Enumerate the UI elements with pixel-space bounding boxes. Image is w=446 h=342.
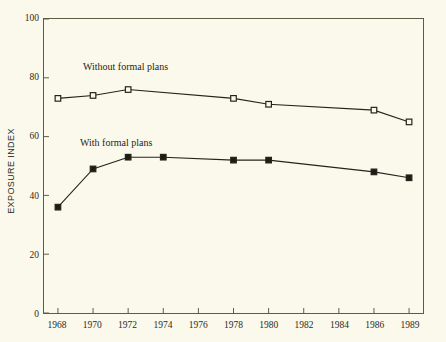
x-axis-tick-label: 1984	[330, 320, 349, 330]
data-point-marker	[55, 204, 61, 210]
series-label-without-formal-plans: Without formal plans	[83, 61, 168, 72]
data-point-marker	[231, 96, 237, 102]
x-axis-tick-label: 1970	[83, 320, 102, 330]
x-axis-tick-labels: 1968197019721974197619781980198219841986…	[0, 320, 446, 338]
y-axis-tick-label: 0	[1, 309, 39, 319]
x-axis-tick-label: 1976	[189, 320, 208, 330]
series-label-with-formal-plans: With formal plans	[80, 137, 152, 148]
chart-page: EXPOSURE INDEX 020406080100 196819701972…	[0, 0, 446, 342]
x-axis-tick-label: 1968	[48, 320, 67, 330]
data-point-marker	[160, 154, 166, 160]
y-axis-tick-label: 60	[1, 131, 39, 141]
y-axis-tick-label: 20	[1, 250, 39, 260]
data-point-marker	[406, 119, 412, 125]
x-axis-tick-label: 1982	[295, 320, 314, 330]
y-axis-tick-label: 100	[1, 13, 39, 23]
data-point-marker	[125, 154, 131, 160]
data-point-marker	[266, 101, 272, 107]
data-point-marker	[90, 166, 96, 172]
data-point-marker	[266, 157, 272, 163]
series-line-without-formal-plans	[58, 90, 409, 122]
data-point-marker	[231, 157, 237, 163]
data-point-marker	[371, 169, 377, 175]
x-axis-tick-label: 1986	[365, 320, 384, 330]
x-axis-tick-label: 1980	[259, 320, 278, 330]
x-axis-tick-label: 1974	[153, 320, 172, 330]
data-point-marker	[125, 87, 131, 93]
data-point-marker	[406, 175, 412, 181]
y-axis-tick-label: 80	[1, 72, 39, 82]
x-axis-tick-label: 1989	[401, 320, 420, 330]
y-axis-tick-labels: 020406080100	[0, 0, 39, 342]
y-axis-tick-label: 40	[1, 191, 39, 201]
data-point-marker	[55, 96, 61, 102]
x-axis-tick-label: 1972	[118, 320, 137, 330]
x-axis-tick-label: 1978	[224, 320, 243, 330]
data-point-marker	[371, 107, 377, 113]
data-point-marker	[90, 93, 96, 99]
series-line-with-formal-plans	[58, 157, 409, 207]
